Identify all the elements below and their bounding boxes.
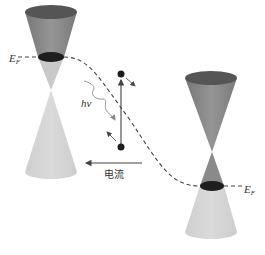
left-cone-top [25, 5, 77, 19]
hole-motion-arrow [107, 132, 116, 141]
dirac-cone-diagram: EF EF hν 电流 [0, 0, 265, 255]
right-cone-top [185, 71, 237, 85]
electron-hole-pair [107, 71, 135, 151]
right-upper-cone [185, 78, 237, 152]
current-label: 电流 [104, 168, 124, 180]
left-fermi-disk [38, 52, 64, 62]
fermi-label-left: EF [8, 52, 21, 66]
left-dirac-cone [25, 5, 77, 179]
photon-label: hν [81, 97, 92, 109]
electron-dot [118, 71, 125, 78]
electron-motion-arrow [126, 78, 135, 86]
hole-dot [118, 144, 125, 151]
right-dirac-cone [185, 71, 237, 239]
fermi-label-right: EF [243, 183, 256, 197]
right-fermi-disk [200, 181, 224, 191]
left-lower-cone [25, 90, 77, 179]
